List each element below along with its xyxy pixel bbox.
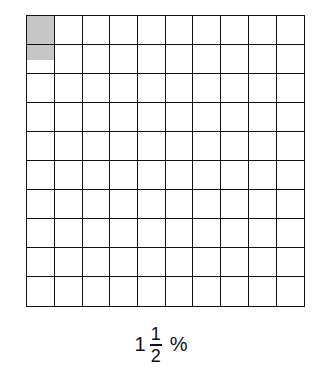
grid-cell xyxy=(248,160,277,191)
grid-cell xyxy=(220,15,249,46)
grid-cell xyxy=(54,160,83,191)
grid-cell xyxy=(54,44,83,75)
grid-cell xyxy=(26,131,55,162)
grid-cell xyxy=(165,189,194,220)
grid-cell xyxy=(137,44,166,75)
grid-cell xyxy=(137,131,166,162)
grid-cell xyxy=(137,73,166,104)
grid-cell xyxy=(165,276,194,307)
grid-cell xyxy=(26,73,55,104)
grid-cell xyxy=(192,44,221,75)
grid-cell xyxy=(54,218,83,249)
grid-cell xyxy=(165,44,194,75)
grid-cell xyxy=(109,73,138,104)
grid-cell xyxy=(192,247,221,278)
grid-cell xyxy=(109,276,138,307)
grid-cell xyxy=(26,189,55,220)
grid-cell xyxy=(82,276,111,307)
grid-cell xyxy=(26,102,55,133)
grid-cell xyxy=(220,218,249,249)
grid-cell xyxy=(248,102,277,133)
grid-cell xyxy=(26,44,55,75)
grid-cell xyxy=(54,131,83,162)
grid-cell xyxy=(137,102,166,133)
grid-cell xyxy=(248,247,277,278)
grid-cell xyxy=(82,247,111,278)
grid-cell xyxy=(26,160,55,191)
grid-cell xyxy=(165,247,194,278)
grid-cell xyxy=(192,102,221,133)
grid-cell xyxy=(220,131,249,162)
grid-cell xyxy=(248,15,277,46)
grid-cell xyxy=(82,44,111,75)
grid-cell xyxy=(276,276,305,307)
grid-cell xyxy=(192,73,221,104)
grid-cell xyxy=(137,189,166,220)
grid-cell xyxy=(192,160,221,191)
grid-cell xyxy=(82,189,111,220)
grid-cell xyxy=(82,73,111,104)
grid-cell xyxy=(26,247,55,278)
grid-cell xyxy=(109,102,138,133)
grid-cell xyxy=(220,160,249,191)
grid-cell xyxy=(82,131,111,162)
grid-cell xyxy=(54,15,83,46)
grid-cell xyxy=(276,44,305,75)
grid-cell xyxy=(192,189,221,220)
grid-cell xyxy=(248,189,277,220)
grid-cell xyxy=(276,131,305,162)
grid-cell xyxy=(248,218,277,249)
grid-cell xyxy=(276,189,305,220)
grid-cell xyxy=(82,160,111,191)
grid-cell xyxy=(276,102,305,133)
percent-sign: % xyxy=(170,333,188,356)
grid-cell xyxy=(248,276,277,307)
grid-cell xyxy=(248,44,277,75)
grid-cell xyxy=(137,247,166,278)
fraction: 1 2 xyxy=(150,325,162,365)
grid-cell xyxy=(26,218,55,249)
grid-cell xyxy=(109,189,138,220)
grid-cell xyxy=(192,131,221,162)
grid-cell xyxy=(165,218,194,249)
percent-label: 1 1 2 % xyxy=(0,325,322,365)
grid-cell xyxy=(220,102,249,133)
grid-cell xyxy=(54,276,83,307)
grid-cell xyxy=(109,247,138,278)
grid-cell xyxy=(220,73,249,104)
grid-cell xyxy=(220,276,249,307)
grid-cell xyxy=(109,131,138,162)
grid-cell xyxy=(248,131,277,162)
grid-cell xyxy=(54,102,83,133)
grid-cell xyxy=(26,15,55,46)
grid-cell xyxy=(276,247,305,278)
grid-cell xyxy=(54,189,83,220)
grid-cell xyxy=(82,15,111,46)
grid-cell xyxy=(137,276,166,307)
grid-cell xyxy=(165,15,194,46)
grid-cell xyxy=(165,102,194,133)
grid-cell xyxy=(109,218,138,249)
grid-cell xyxy=(109,44,138,75)
grid-cell xyxy=(165,73,194,104)
grid-cell xyxy=(82,102,111,133)
grid-cell xyxy=(137,160,166,191)
grid-cell xyxy=(276,15,305,46)
whole-number: 1 xyxy=(135,333,146,356)
hundred-grid xyxy=(26,15,305,307)
grid-cell xyxy=(192,15,221,46)
grid-cell xyxy=(137,15,166,46)
grid-cell xyxy=(54,73,83,104)
grid-cell xyxy=(220,247,249,278)
grid-cell xyxy=(26,276,55,307)
grid-cell xyxy=(109,160,138,191)
grid-cell xyxy=(276,73,305,104)
grid-cell xyxy=(82,218,111,249)
denominator: 2 xyxy=(151,347,161,365)
grid-cell xyxy=(109,15,138,46)
grid-cell xyxy=(192,218,221,249)
grid-cell xyxy=(276,218,305,249)
grid-cell xyxy=(276,160,305,191)
grid-cell xyxy=(248,73,277,104)
grid-cell xyxy=(192,276,221,307)
